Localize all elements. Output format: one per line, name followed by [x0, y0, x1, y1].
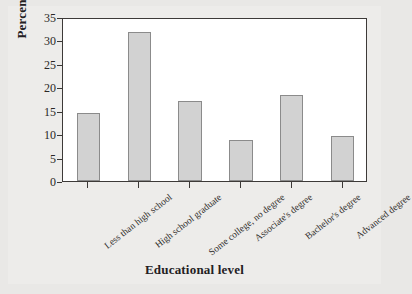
x-axis-tickmark — [138, 182, 139, 188]
y-axis-tickmark — [57, 41, 62, 42]
y-axis-tickmark — [57, 182, 62, 183]
y-axis-ticklabels: 05101520253035 — [30, 18, 56, 182]
bar — [331, 136, 354, 181]
bar — [128, 32, 151, 181]
y-axis-ticklabel: 5 — [30, 153, 56, 165]
bar — [280, 95, 303, 181]
y-axis-tickmark — [57, 18, 62, 19]
bar — [77, 113, 100, 181]
y-axis-ticklabel: 30 — [30, 35, 56, 47]
x-axis-tickmark — [189, 182, 190, 188]
y-axis-tickmark — [57, 88, 62, 89]
y-axis-tickmark — [57, 159, 62, 160]
y-axis-tickmark — [57, 112, 62, 113]
x-axis-tickmark — [342, 182, 343, 188]
plot-area — [63, 19, 366, 181]
y-axis-ticklabel: 35 — [30, 12, 56, 24]
y-axis-ticklabel: 15 — [30, 106, 56, 118]
x-axis-tickmark — [87, 182, 88, 188]
y-axis-title: Percentage — [14, 0, 30, 62]
bar — [178, 101, 201, 181]
x-axis-title: Educational level — [0, 262, 389, 278]
y-axis-ticklabel: 20 — [30, 82, 56, 94]
x-axis-tickmark — [240, 182, 241, 188]
y-axis-ticklabel: 25 — [30, 59, 56, 71]
y-axis-tickmark — [57, 135, 62, 136]
plot-frame — [62, 18, 367, 182]
y-axis-ticklabel: 0 — [30, 176, 56, 188]
y-axis-ticklabel: 10 — [30, 129, 56, 141]
y-axis-tickmark — [57, 65, 62, 66]
bar — [229, 140, 252, 181]
x-axis-tickmark — [291, 182, 292, 188]
